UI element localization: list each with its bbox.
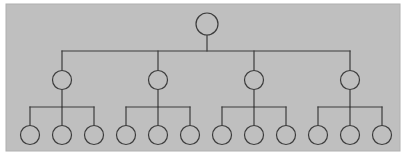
tree-diagram-figure xyxy=(0,0,415,159)
tree-node-leaf-l10[interactable] xyxy=(309,126,328,145)
tree-node-leaf-l5[interactable] xyxy=(149,126,168,145)
tree-node-root-r[interactable] xyxy=(196,13,218,35)
tree-node-level2-b3[interactable] xyxy=(245,71,264,90)
tree-node-leaf-l11[interactable] xyxy=(341,126,360,145)
tree-node-leaf-l1[interactable] xyxy=(21,126,40,145)
tree-node-level2-b1[interactable] xyxy=(53,71,72,90)
tree-node-level2-b4[interactable] xyxy=(341,71,360,90)
tree-node-leaf-l12[interactable] xyxy=(373,126,392,145)
tree-node-level2-b2[interactable] xyxy=(149,71,168,90)
tree-node-leaf-l9[interactable] xyxy=(277,126,296,145)
tree-node-leaf-l8[interactable] xyxy=(245,126,264,145)
tree-diagram-canvas xyxy=(0,0,415,159)
tree-node-leaf-l3[interactable] xyxy=(85,126,104,145)
tree-node-leaf-l2[interactable] xyxy=(53,126,72,145)
tree-node-leaf-l4[interactable] xyxy=(117,126,136,145)
tree-node-leaf-l6[interactable] xyxy=(181,126,200,145)
tree-node-leaf-l7[interactable] xyxy=(213,126,232,145)
